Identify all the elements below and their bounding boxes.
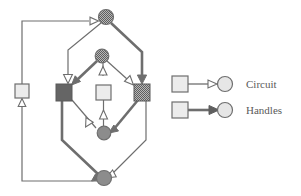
legend-square-icon bbox=[172, 76, 188, 92]
edge-darkleft-to-lowercircle bbox=[72, 100, 96, 128]
edge-darkright-to-lowercircle bbox=[109, 100, 138, 133]
legend-circle-icon bbox=[218, 77, 233, 92]
edge-topcircle-to-darkright bbox=[111, 23, 147, 84]
node-square-left-outer[interactable] bbox=[15, 84, 29, 98]
node-square-dark-left[interactable] bbox=[56, 84, 72, 101]
node-circle-top[interactable] bbox=[99, 10, 114, 25]
legend-circle-icon bbox=[218, 103, 233, 118]
legend-label-handles: Handles bbox=[246, 104, 282, 116]
node-circle-lower[interactable] bbox=[97, 126, 111, 140]
legend-entry-handles: Handles bbox=[172, 102, 282, 118]
legend: Circuit Handles bbox=[172, 76, 282, 118]
edge-midcircle-to-darkright bbox=[107, 61, 134, 85]
diagram-canvas: Circuit Handles bbox=[0, 0, 301, 196]
node-square-center[interactable] bbox=[96, 85, 111, 100]
edge-bottom-to-leftsquare bbox=[18, 99, 97, 182]
legend-hollow-arrowhead-icon bbox=[208, 80, 217, 88]
node-circle-mid[interactable] bbox=[95, 49, 109, 63]
legend-square-icon bbox=[172, 102, 188, 118]
edge-midcircle-to-darkleft bbox=[72, 61, 98, 85]
node-circle-bottom[interactable] bbox=[97, 171, 112, 186]
edge-midcircle-to-centersquare bbox=[99, 62, 107, 76]
edge-layer bbox=[18, 17, 146, 181]
edge-leftsquare-to-topcircle bbox=[22, 17, 99, 84]
edge-centersquare-to-lowercircle bbox=[100, 100, 108, 126]
legend-entry-circuit: Circuit bbox=[172, 76, 277, 92]
node-square-dark-right[interactable] bbox=[134, 84, 150, 101]
legend-label-circuit: Circuit bbox=[246, 78, 277, 90]
